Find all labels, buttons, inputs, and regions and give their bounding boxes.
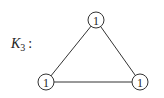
node-label: 1 (93, 14, 99, 28)
node-top: 1 (88, 12, 104, 28)
node-bottom-right: 1 (132, 74, 148, 90)
node-bottom-left: 1 (38, 74, 54, 90)
graph-name: K3: (10, 36, 32, 53)
edge-top-bottom-left (46, 20, 96, 82)
graph-diagram: K3: 1 1 1 (0, 0, 164, 98)
edge-top-bottom-right (96, 20, 140, 82)
node-label: 1 (43, 76, 49, 90)
node-label: 1 (137, 76, 143, 90)
